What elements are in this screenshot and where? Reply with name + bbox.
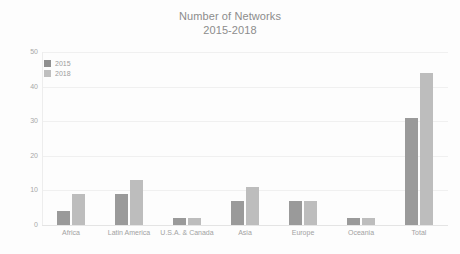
bar[interactable] <box>246 187 259 225</box>
x-axis-labels: AfricaLatin AmericaU.S.A. & CanadaAsiaEu… <box>42 228 448 244</box>
bar[interactable] <box>362 218 375 225</box>
bar-group <box>405 52 433 225</box>
bar-group <box>289 52 317 225</box>
bar[interactable] <box>304 201 317 225</box>
y-axis-tick-label: 50 <box>12 48 38 56</box>
bar[interactable] <box>231 201 244 225</box>
x-axis-tick-label: U.S.A. & Canada <box>160 228 213 238</box>
y-axis-tick-label: 0 <box>12 221 38 229</box>
bar[interactable] <box>188 218 201 225</box>
legend-swatch-icon-2018 <box>44 70 51 77</box>
x-axis-tick-label: Latin America <box>108 228 150 238</box>
legend-label-2018: 2018 <box>55 70 71 78</box>
x-axis-tick-label: Oceania <box>348 228 374 238</box>
bars-layer <box>42 52 448 225</box>
chart-container: Number of Networks 2015-2018 50403020100… <box>0 0 460 254</box>
x-axis-tick-label: Total <box>412 228 427 238</box>
chart-title-line-1: Number of Networks <box>0 9 460 23</box>
legend-label-2015: 2015 <box>55 60 71 68</box>
legend-item-2018[interactable]: 2018 <box>44 69 71 78</box>
bar[interactable] <box>405 118 418 225</box>
bar-group <box>347 52 375 225</box>
y-axis: 50403020100 <box>8 52 38 225</box>
bar[interactable] <box>57 211 70 225</box>
bar-group <box>115 52 143 225</box>
x-axis-tick-label: Asia <box>238 228 252 238</box>
bar-group <box>173 52 201 225</box>
x-axis-line <box>42 225 448 226</box>
bar[interactable] <box>115 194 128 225</box>
bar-group <box>231 52 259 225</box>
y-axis-tick-label: 40 <box>12 83 38 91</box>
y-axis-tick-label: 10 <box>12 186 38 194</box>
y-axis-tick-label: 20 <box>12 152 38 160</box>
bar[interactable] <box>289 201 302 225</box>
chart-legend: 2015 2018 <box>44 59 71 79</box>
x-axis-tick-label: Africa <box>62 228 80 238</box>
chart-title: Number of Networks 2015-2018 <box>0 9 460 37</box>
legend-swatch-icon-2015 <box>44 60 51 67</box>
bar[interactable] <box>420 73 433 225</box>
bar[interactable] <box>347 218 360 225</box>
bar[interactable] <box>130 180 143 225</box>
bar[interactable] <box>173 218 186 225</box>
y-axis-tick-label: 30 <box>12 117 38 125</box>
chart-title-line-2: 2015-2018 <box>0 23 460 37</box>
bar[interactable] <box>72 194 85 225</box>
legend-item-2015[interactable]: 2015 <box>44 59 71 68</box>
x-axis-tick-label: Europe <box>292 228 315 238</box>
